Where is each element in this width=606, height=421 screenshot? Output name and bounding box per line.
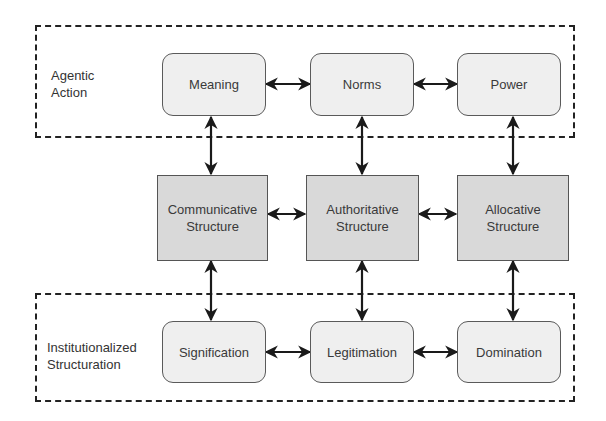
- node-allocative-structure: Allocative Structure: [457, 175, 569, 261]
- node-signification: Signification: [162, 321, 266, 383]
- node-legitimation: Legitimation: [310, 321, 414, 383]
- node-authoritative-structure: Authoritative Structure: [306, 175, 419, 261]
- node-norms: Norms: [310, 53, 414, 116]
- node-communicative-structure: Communicative Structure: [157, 175, 268, 261]
- node-domination: Domination: [457, 321, 561, 383]
- diagram-canvas: Agentic Action Institutionalized Structu…: [0, 0, 606, 421]
- node-meaning: Meaning: [162, 53, 266, 116]
- node-power: Power: [457, 53, 561, 116]
